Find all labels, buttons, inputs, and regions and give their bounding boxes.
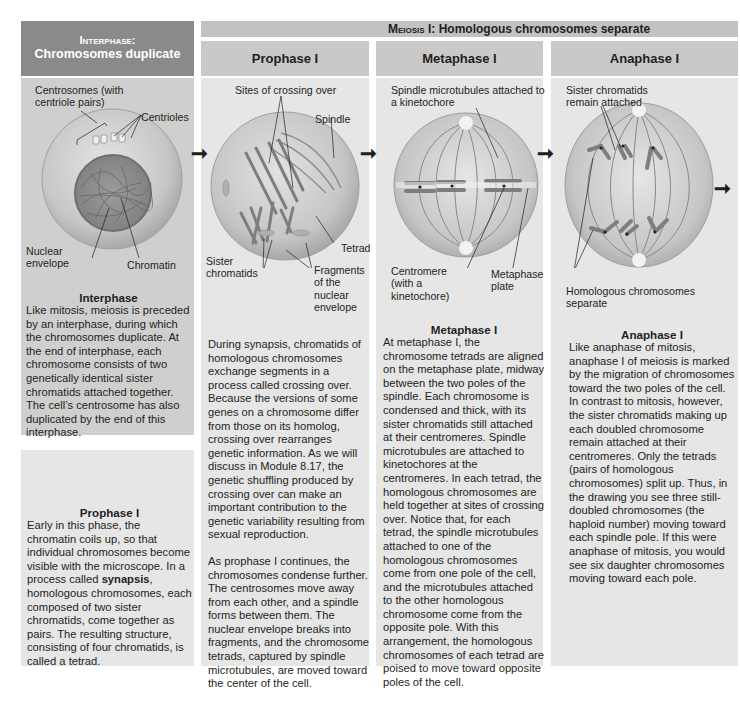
label-metaphase-plate: Metaphase plate: [491, 268, 541, 293]
meiosis-banner-prefix: Meiosis: [388, 22, 425, 36]
label-fragments-nuclear-envelope: Fragments of the nuclear envelope: [314, 264, 370, 314]
prophase-box-title: Prophase I: [27, 506, 192, 519]
label-sister-chromatids: Sister chromatids: [206, 255, 261, 280]
metaphase1-description: Metaphase I At metaphase I, the chromoso…: [383, 323, 545, 689]
prophase1-header: Prophase I: [201, 41, 369, 76]
interphase-header-line2: Chromosomes duplicate: [21, 47, 194, 61]
label-spindle-microtubules: Spindle microtubules attached to a kinet…: [391, 84, 551, 109]
prophase1-description: During synapsis, chromatids of homologou…: [208, 338, 370, 691]
anaphase1-title: Anaphase I: [569, 328, 735, 341]
anaphase1-header: Anaphase I: [551, 41, 738, 76]
label-tetrad: Tetrad: [341, 242, 370, 254]
label-centrosomes: Centrosomes (with centriole pairs): [35, 84, 125, 109]
anaphase1-header-label: Anaphase I: [610, 51, 679, 66]
meiosis-banner: Meiosis I: Homologous chromosomes separa…: [201, 21, 738, 37]
prophase1-header-label: Prophase I: [252, 51, 318, 66]
prophase-box-description: Prophase I Early in this phase, the chro…: [27, 506, 192, 669]
interphase-title: Interphase: [26, 291, 191, 304]
label-chromatin: Chromatin: [127, 259, 176, 271]
label-centromere: Centromere (with a kinetochore): [391, 265, 451, 302]
label-nuclear-envelope: Nuclear envelope: [26, 245, 81, 270]
label-homologous-chromosomes-separate: Homologous chromosomes separate: [566, 285, 716, 310]
metaphase1-header: Metaphase I: [376, 41, 543, 76]
label-sister-chromatids-remain-attached: Sister chromatids remain attached: [566, 84, 676, 109]
metaphase1-header-label: Metaphase I: [422, 51, 496, 66]
interphase-header: Interphase: Chromosomes duplicate: [21, 21, 194, 76]
anaphase1-description: Anaphase I Like anaphase of mitosis, ana…: [569, 328, 735, 586]
interphase-text: Like mitosis, meiosis is preceded by an …: [26, 304, 191, 440]
metaphase1-text: At metaphase I, the chromosome tetrads a…: [383, 336, 545, 689]
interphase-description: Interphase Like mitosis, meiosis is prec…: [26, 291, 191, 440]
prophase1-text-p2: As prophase I continues, the chromosomes…: [208, 555, 370, 691]
anaphase1-text: Like anaphase of mitosis, anaphase I of …: [569, 341, 735, 586]
interphase-header-line1: Interphase:: [21, 34, 194, 46]
label-sites-of-crossing-over: Sites of crossing over: [235, 84, 336, 96]
prophase-box-bold-term: synapsis: [102, 573, 150, 585]
meiosis-banner-suffix: I: Homologous chromosomes separate: [425, 22, 650, 36]
prophase-box-text: Early in this phase, the chromatin coils…: [27, 519, 192, 669]
label-centrioles: Centrioles: [141, 111, 189, 123]
prophase1-text-p1: During synapsis, chromatids of homologou…: [208, 338, 370, 542]
metaphase1-title: Metaphase I: [383, 323, 545, 336]
prophase1-cell-diagram: [201, 78, 369, 268]
prophase-box-text-after: , homologous chromosomes, each composed …: [27, 573, 192, 667]
label-spindle: Spindle: [315, 113, 350, 125]
